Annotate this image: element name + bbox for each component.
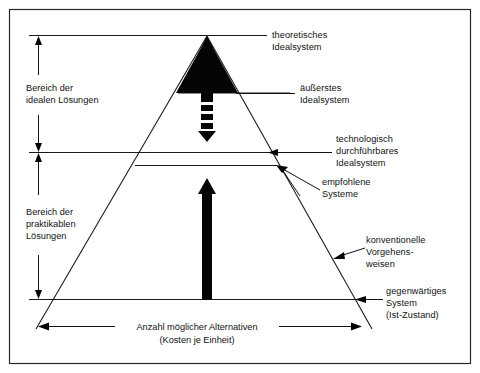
label-current-line2: System [386,298,417,308]
label-theoretical-line2: Idealsystem [272,42,322,52]
axis-label-line1: Anzahl möglicher Alternativen [136,322,257,332]
label-outermost-line2: Idealsystem [300,95,350,105]
diagram-canvas: Bereich der idealen Lösungen Bereich der… [0,0,480,373]
down-arrow-segment-3 [201,114,213,120]
label-technological-line3: Idealsystem [336,158,386,168]
label-conventional-line2: Vorgehens- [366,247,414,257]
label-conventional-line3: weisen [365,259,395,269]
label-technological-line1: technologisch [336,134,393,144]
bracket-lower-label-line2: praktikablen [26,219,76,229]
label-recommended-line1: empfohlene [322,177,371,187]
diagram-figure: Bereich der idealen Lösungen Bereich der… [0,0,480,373]
up-arrow-shaft [202,190,212,300]
down-arrow-segment-4 [201,123,213,129]
label-outermost-line1: äußerstes [300,83,342,93]
label-current-line3: (Ist-Zustand) [386,310,439,320]
bracket-upper-label-line2: idealen Lösungen [26,95,99,105]
label-theoretical-line1: theoretisches [272,30,328,40]
label-technological-line2: durchführbares [336,146,399,156]
label-conventional-line1: konventionelle [366,235,425,245]
label-current-line1: gegenwärtiges [386,286,447,296]
down-arrow-segment-1 [201,93,213,102]
axis-label-line2: (Kosten je Einheit) [159,335,234,345]
bracket-lower-label-line1: Bereich der [26,207,73,217]
down-arrow-segment-2 [201,105,213,111]
label-recommended-line2: Systeme [322,189,358,199]
bracket-upper-label-line1: Bereich der [26,83,73,93]
bracket-lower-label-line3: Lösungen [26,231,66,241]
